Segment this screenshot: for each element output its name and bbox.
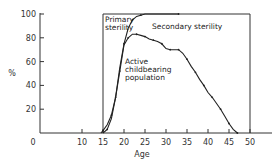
x-tick-label: 45 (224, 138, 234, 147)
data-point (102, 130, 104, 132)
x-tick-label: 30 (161, 138, 171, 147)
annotation-active: population (125, 73, 165, 82)
series-line-1 (101, 34, 238, 133)
x-tick-label: 50 (245, 138, 255, 147)
data-point (153, 39, 155, 41)
y-tick-label: 80 (26, 34, 36, 43)
data-point (220, 108, 222, 110)
data-point (111, 114, 113, 116)
annotation-secondary: Secondary sterility (152, 22, 223, 31)
x-tick-label: 0 (30, 138, 35, 147)
data-point (186, 58, 188, 60)
data-point (228, 123, 230, 125)
chart: 204060801000101520253035404550Age%Primar… (0, 0, 279, 167)
x-tick-label: 10 (77, 138, 87, 147)
data-point (178, 49, 180, 51)
x-tick-label: 20 (119, 138, 129, 147)
y-axis-label: % (8, 69, 16, 78)
y-tick-label: 20 (26, 105, 36, 114)
data-point (203, 85, 205, 87)
data-point (169, 49, 171, 51)
data-point (127, 37, 129, 39)
data-point (140, 14, 142, 16)
data-point (178, 13, 180, 15)
data-point (161, 43, 163, 45)
data-point (237, 132, 239, 134)
data-point (119, 70, 121, 72)
data-point (136, 33, 138, 35)
data-point (211, 96, 213, 98)
annotation-primary: sterility (105, 23, 134, 32)
x-axis-label: Age (134, 150, 150, 159)
data-point (106, 129, 108, 131)
y-tick-label: 40 (26, 81, 36, 90)
y-tick-label: 60 (26, 58, 36, 67)
x-tick-label: 40 (203, 138, 213, 147)
data-point (144, 36, 146, 38)
x-tick-label: 15 (98, 138, 108, 147)
data-point (195, 71, 197, 73)
y-tick-label: 100 (21, 10, 36, 19)
x-tick-label: 25 (140, 138, 150, 147)
x-tick-label: 35 (182, 138, 192, 147)
